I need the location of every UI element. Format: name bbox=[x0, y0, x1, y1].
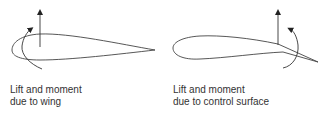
control-surface-airfoil-outline bbox=[173, 36, 318, 62]
wing-panel bbox=[12, 12, 155, 69]
wing-caption-line1: Lift and moment bbox=[10, 84, 82, 96]
wing-caption-line2: due to wing bbox=[10, 96, 82, 108]
control-surface-caption: Lift and moment due to control surface bbox=[173, 84, 269, 108]
control-surface-caption-line2: due to control surface bbox=[173, 96, 269, 108]
wing-caption: Lift and moment due to wing bbox=[10, 84, 82, 108]
control-surface-panel bbox=[173, 12, 318, 68]
control-surface-caption-line1: Lift and moment bbox=[173, 84, 269, 96]
wing-airfoil-outline bbox=[12, 34, 155, 60]
control-surface-moment-arrow-icon bbox=[283, 29, 298, 68]
